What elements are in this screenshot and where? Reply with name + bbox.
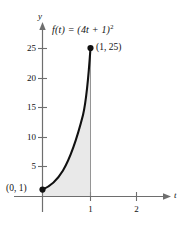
point-marker-origin xyxy=(39,187,45,193)
shaded-area xyxy=(43,48,91,196)
point-label-origin: (0, 1) xyxy=(6,184,27,194)
x-tick-label-2: 2 xyxy=(130,205,144,214)
point-marker-top xyxy=(87,45,93,51)
x-axis-label: t xyxy=(174,191,177,200)
function-label-exponent: 2 xyxy=(110,23,113,30)
x-tick-label-1: 1 xyxy=(84,205,98,214)
point-label-top: (1, 25) xyxy=(96,43,121,53)
y-tick-label-15: 15 xyxy=(20,103,36,112)
y-tick-label-25: 25 xyxy=(20,44,36,53)
function-label: f(t) = (4t + 1)2 xyxy=(52,24,114,35)
figure-container: y t f(t) = (4t + 1)2 (1, 25) (0, 1) 25 2… xyxy=(0,0,183,227)
y-tick-label-10: 10 xyxy=(20,133,36,142)
x-axis-arrow xyxy=(163,193,171,199)
y-tick-label-20: 20 xyxy=(20,74,36,83)
function-label-text: f(t) = (4t + 1) xyxy=(52,24,110,35)
y-axis-label: y xyxy=(38,12,42,21)
y-tick-label-5: 5 xyxy=(20,162,36,171)
y-axis-arrow xyxy=(39,22,45,30)
